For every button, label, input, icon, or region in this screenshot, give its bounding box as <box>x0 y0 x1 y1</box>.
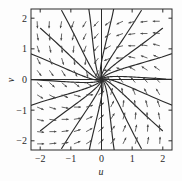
y-tick-label: 2 <box>22 13 27 24</box>
phase-portrait-figure: −2−1012−2−1012 u v <box>0 0 182 181</box>
x-tick-label: 0 <box>99 153 104 164</box>
x-tick-label: −2 <box>35 153 46 164</box>
y-tick-label: −2 <box>16 135 27 146</box>
y-tick-label: 1 <box>22 43 27 54</box>
x-axis-label: u <box>99 166 104 177</box>
y-axis-label: v <box>5 77 16 82</box>
y-tick-label: −1 <box>16 105 27 116</box>
x-tick-label: −1 <box>66 153 77 164</box>
x-tick-label: 2 <box>160 153 165 164</box>
x-tick-label: 1 <box>130 153 135 164</box>
phase-portrait-plot: −2−1012−2−1012 u v <box>0 0 182 181</box>
y-tick-label: 0 <box>22 74 27 85</box>
